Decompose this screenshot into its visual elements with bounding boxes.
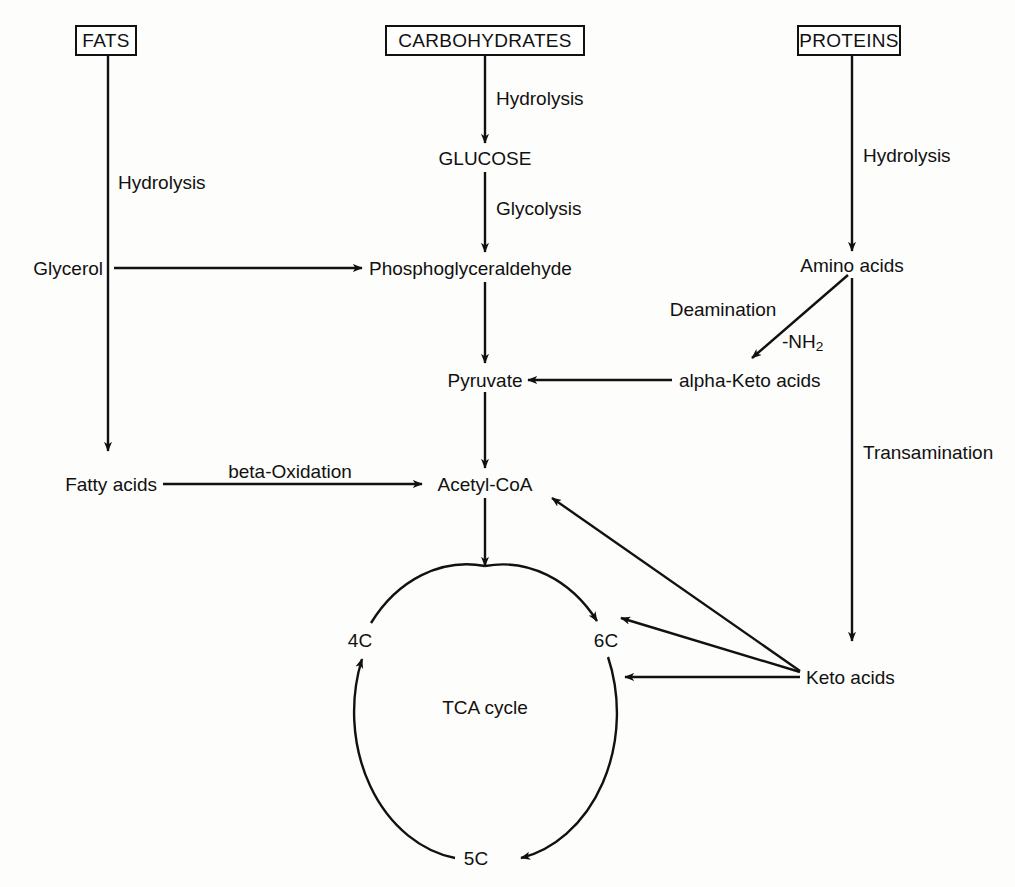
minus-nh2-subscript: 2 [816,339,824,354]
edge-label-minus-nh2: -NH2 [782,332,823,354]
node-box-fats-label: FATS [82,30,129,52]
node-phosphoglyceraldehyde: Phosphoglyceraldehyde [369,259,572,278]
node-5c: 5C [464,849,488,868]
node-4c: 4C [348,631,372,650]
minus-nh2-text: -NH [782,331,816,352]
edge-label-fats-hydrolysis: Hydrolysis [118,173,206,192]
node-glucose: GLUCOSE [439,149,532,168]
node-box-carbohydrates-label: CARBOHYDRATES [398,30,572,52]
edge-ketoacids-to-6c-diagonal [621,618,800,672]
node-box-fats: FATS [75,25,137,56]
node-box-proteins-label: PROTEINS [799,30,899,52]
tca-arc-6c-to-5c [521,657,617,858]
edge-label-beta-oxidation: beta-Oxidation [228,462,352,481]
node-glycerol: Glycerol [33,259,103,278]
tca-arc-4c-to-top [371,564,485,623]
edge-ketoacids-to-acetylcoa [552,498,800,671]
node-tca-cycle-label: TCA cycle [442,698,528,717]
metabolism-diagram: FATS CARBOHYDRATES PROTEINS Hydrolysis H… [0,0,1015,887]
edge-label-transamination: Transamination [863,443,993,462]
node-pyruvate: Pyruvate [448,371,523,390]
node-fatty-acids: Fatty acids [65,475,157,494]
edge-label-carbs-hydrolysis: Hydrolysis [496,89,584,108]
node-acetyl-coa: Acetyl-CoA [437,475,532,494]
node-box-carbohydrates: CARBOHYDRATES [385,25,585,56]
edge-label-deamination: Deamination [670,300,777,319]
edge-label-glycolysis: Glycolysis [496,199,582,218]
node-amino-acids: Amino acids [800,256,904,275]
node-keto-acids: Keto acids [806,668,895,687]
node-6c: 6C [594,631,618,650]
tca-arc-5c-to-4c [354,659,455,858]
edge-label-proteins-hydrolysis: Hydrolysis [863,146,951,165]
tca-arc-top-to-6c [485,564,597,621]
node-box-proteins: PROTEINS [797,25,901,56]
node-alpha-keto-acids: alpha-Keto acids [679,371,821,390]
